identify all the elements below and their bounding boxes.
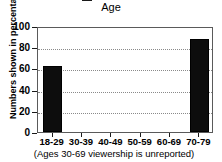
y-axis-tick-label: 20 (0, 107, 30, 117)
y-axis-title: Numbers shown in percentages (8, 0, 18, 119)
plot-area (37, 27, 213, 133)
y-axis-tick-label: 60 (0, 64, 30, 74)
x-axis-tick-label: 70-79 (176, 136, 220, 147)
y-axis-tick-mark (32, 133, 37, 134)
gridline (38, 92, 212, 93)
bar (190, 39, 209, 132)
chart-footnote: (Ages 30-69 viewership is unreported) (14, 148, 214, 159)
bar (43, 66, 62, 132)
chart-title: Age (0, 1, 222, 13)
gridline (38, 113, 212, 114)
y-axis-tick-label: 40 (0, 86, 30, 96)
y-axis-tick-label: 100 (0, 22, 30, 32)
y-axis-tick-label: 0 (0, 128, 30, 138)
gridline (38, 70, 212, 71)
bar-chart-figure: Age Numbers shown in percentages 0204060… (0, 0, 222, 162)
y-axis-tick-label: 80 (0, 43, 30, 53)
gridline (38, 49, 212, 50)
